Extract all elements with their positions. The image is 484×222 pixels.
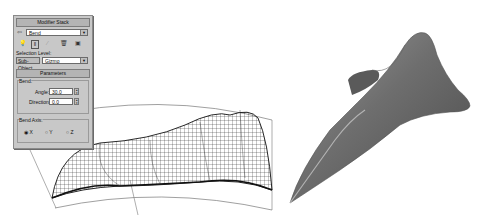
bend-group bbox=[17, 80, 89, 114]
gizmo-bottom-arc bbox=[55, 197, 272, 210]
configure-modifier-sets-icon[interactable]: ▣ bbox=[75, 40, 81, 47]
direction-label: Direction: bbox=[29, 99, 50, 105]
axis-y-label: Y bbox=[49, 129, 52, 135]
chevron-down-icon[interactable]: ▼ bbox=[80, 30, 87, 35]
pin-stack-icon[interactable]: ⇦ bbox=[17, 29, 22, 36]
show-end-result-icon[interactable]: ‖ bbox=[31, 40, 39, 49]
remove-modifier-icon[interactable]: 🗑 bbox=[60, 40, 68, 47]
axis-z-label: Z bbox=[70, 129, 73, 135]
make-unique-icon[interactable]: ∕ bbox=[47, 40, 48, 47]
axis-y-radio[interactable]: ○ Y bbox=[45, 129, 53, 135]
sub-object-value: Gizmo bbox=[45, 58, 59, 64]
sub-object-button[interactable]: Sub-Object bbox=[16, 57, 40, 64]
chevron-down-icon[interactable]: ▼ bbox=[80, 58, 87, 63]
bend-axis-label: Bend Axis: bbox=[19, 117, 43, 123]
gizmo-edge-left bbox=[30, 150, 56, 208]
axis-x-label: X bbox=[29, 129, 32, 135]
selection-level-label: Selection Level: bbox=[16, 50, 51, 56]
modifier-stack-title[interactable]: Modifier Stack bbox=[16, 18, 90, 27]
angle-label: Angle: bbox=[35, 89, 49, 95]
angle-spinner[interactable]: ▴▾ bbox=[74, 88, 79, 95]
sub-object-dropdown[interactable]: Gizmo ▼ bbox=[42, 57, 88, 64]
modifier-panel: Modifier Stack ⇦ Bend ▼ 💡 ‖ ∕ 🗑 ▣ Select… bbox=[13, 15, 93, 149]
bend-group-label: Bend: bbox=[19, 78, 32, 84]
angle-input[interactable]: 30.0 bbox=[49, 88, 73, 95]
modifier-dropdown-value: Bend bbox=[29, 30, 41, 36]
direction-spinner[interactable]: ▴▾ bbox=[74, 98, 79, 105]
modifier-dropdown[interactable]: Bend ▼ bbox=[26, 29, 88, 36]
active-inactive-toggle-icon[interactable]: 💡 bbox=[19, 40, 26, 47]
axis-x-radio[interactable]: ◉ X bbox=[24, 129, 33, 135]
direction-input[interactable]: 0.0 bbox=[49, 98, 73, 105]
parameters-rollout-title[interactable]: Parameters bbox=[16, 69, 90, 78]
shaded-object bbox=[290, 33, 470, 204]
axis-z-radio[interactable]: ○ Z bbox=[66, 129, 73, 135]
